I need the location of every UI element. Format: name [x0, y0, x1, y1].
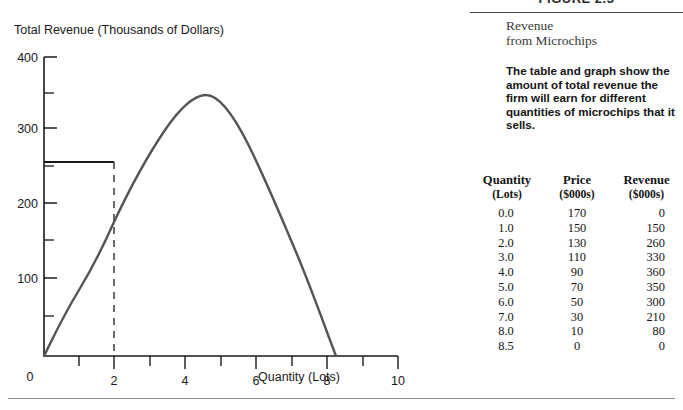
- table-header-quantity: Quantity (Lots): [470, 174, 544, 201]
- x-tick-label-10: 10: [391, 374, 405, 388]
- cell-quantity: 7.0: [470, 310, 544, 325]
- cell-price: 30: [544, 310, 610, 325]
- cell-price: 90: [544, 265, 610, 280]
- cell-quantity: 2.0: [470, 236, 544, 251]
- table-header-quantity-unit: (Lots): [470, 188, 544, 202]
- x-tick-label-2: 2: [111, 374, 118, 388]
- y-tick-label-200: 200: [17, 197, 38, 211]
- cell-price: 70: [544, 280, 610, 295]
- figure-title-line1: Revenue: [506, 18, 683, 33]
- cell-revenue: 80: [610, 324, 683, 339]
- cell-revenue: 0: [610, 339, 683, 354]
- cell-quantity: 0.0: [470, 201, 544, 221]
- cell-quantity: 4.0: [470, 265, 544, 280]
- cell-quantity: 1.0: [470, 221, 544, 236]
- cell-price: 130: [544, 236, 610, 251]
- cell-price: 10: [544, 324, 610, 339]
- table-row: 5.0 70 350: [470, 280, 683, 295]
- x-tick-label-4: 4: [182, 374, 189, 388]
- y-axis-major-ticks: [44, 57, 57, 278]
- table-row: 1.0 150 150: [470, 221, 683, 236]
- right-panel: Revenue from Microchips The table and gr…: [470, 18, 683, 390]
- y-tick-label-300: 300: [17, 122, 38, 136]
- cell-price: 150: [544, 221, 610, 236]
- cell-revenue: 300: [610, 295, 683, 310]
- y-tick-label-100: 100: [17, 272, 38, 286]
- table-row: 4.0 90 360: [470, 265, 683, 280]
- cell-revenue: 150: [610, 221, 683, 236]
- table-header-revenue-unit: ($000s): [610, 188, 683, 202]
- table-header-revenue: Revenue ($000s): [610, 174, 683, 201]
- table-header-row: Quantity (Lots) Price ($000s) Revenue ($…: [470, 174, 683, 201]
- table-header-price-unit: ($000s): [544, 188, 610, 202]
- table-header-quantity-label: Quantity: [483, 173, 531, 187]
- figure-caption: The table and graph show the amount of t…: [506, 64, 682, 132]
- table-row: 7.0 30 210: [470, 310, 683, 325]
- cell-price: 110: [544, 250, 610, 265]
- table-row: 0.0 170 0: [470, 201, 683, 221]
- cell-revenue: 330: [610, 250, 683, 265]
- y-axis-minor-ticks: [44, 93, 54, 316]
- cell-price: 170: [544, 201, 610, 221]
- cell-revenue: 210: [610, 310, 683, 325]
- cell-revenue: 260: [610, 236, 683, 251]
- table-header-price: Price ($000s): [544, 174, 610, 201]
- y-tick-label-400: 400: [17, 51, 38, 65]
- cell-price: 0: [544, 339, 610, 354]
- revenue-curve-plot: 400 300 200 100 0 2 4 6 8 10: [0, 0, 460, 398]
- cell-revenue: 0: [610, 201, 683, 221]
- table-row: 3.0 110 330: [470, 250, 683, 265]
- figure-top-divider: [470, 12, 683, 13]
- figure-number: FIGURE 2.3: [470, 0, 683, 5]
- cell-quantity: 8.5: [470, 339, 544, 354]
- cell-quantity: 5.0: [470, 280, 544, 295]
- x-tick-label-8: 8: [324, 374, 331, 388]
- cell-price: 50: [544, 295, 610, 310]
- table-row: 2.0 130 260: [470, 236, 683, 251]
- figure-title-line2: from Microchips: [506, 33, 683, 48]
- table-header-revenue-label: Revenue: [623, 173, 669, 187]
- cell-revenue: 360: [610, 265, 683, 280]
- table-row: 8.5 0 0: [470, 339, 683, 354]
- cell-quantity: 3.0: [470, 250, 544, 265]
- x-axis-ticks: [79, 356, 398, 369]
- cell-quantity: 8.0: [470, 324, 544, 339]
- figure-title: Revenue from Microchips: [506, 18, 683, 48]
- x-tick-label-6: 6: [253, 374, 260, 388]
- chart-panel: Total Revenue (Thousands of Dollars) Qua…: [0, 0, 460, 398]
- total-revenue-curve: [44, 95, 336, 356]
- revenue-table: Quantity (Lots) Price ($000s) Revenue ($…: [470, 174, 683, 354]
- table-header-price-label: Price: [563, 173, 591, 187]
- table-row: 6.0 50 300: [470, 295, 683, 310]
- y-tick-label-0: 0: [27, 370, 34, 384]
- table-row: 8.0 10 80: [470, 324, 683, 339]
- cell-quantity: 6.0: [470, 295, 544, 310]
- cell-revenue: 350: [610, 280, 683, 295]
- figure-bottom-divider: [8, 398, 675, 399]
